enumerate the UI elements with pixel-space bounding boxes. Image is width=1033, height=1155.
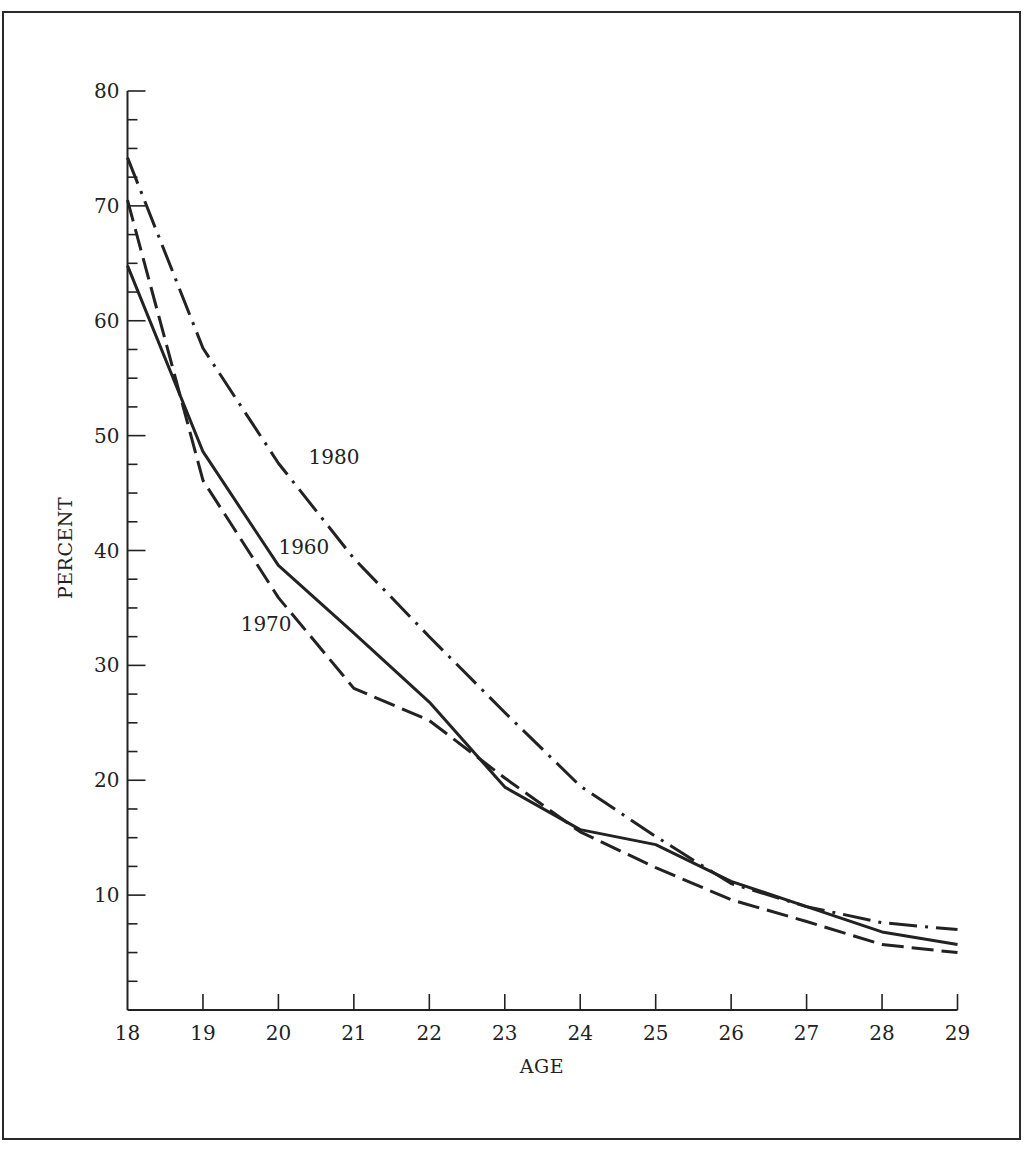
x-tick-label: 23: [492, 1021, 517, 1045]
axes: [128, 91, 958, 1010]
series-1960-line: [128, 266, 958, 945]
y-tick-label: 50: [94, 424, 119, 448]
x-tick-label: 22: [417, 1021, 442, 1045]
series-lines: [128, 158, 958, 953]
y-axis-title: PERCENT: [54, 497, 76, 599]
y-tick-label: 30: [94, 653, 119, 677]
x-tick-label: 19: [190, 1021, 215, 1045]
y-tick-label: 20: [94, 768, 119, 792]
y-tick-label: 80: [94, 79, 119, 103]
y-tick-label: 10: [94, 883, 119, 907]
x-tick-label: 28: [869, 1021, 894, 1045]
x-tick-label: 26: [718, 1021, 743, 1045]
series-label-1980: 1980: [309, 445, 360, 469]
x-tick-label: 29: [945, 1021, 970, 1045]
series-1980-line: [128, 158, 958, 930]
y-tick-label: 70: [94, 194, 119, 218]
axis-ticks: 1020304050607080181920212223242526272829: [94, 79, 970, 1045]
x-tick-label: 25: [643, 1021, 668, 1045]
line-chart: 1020304050607080181920212223242526272829…: [0, 0, 1033, 1155]
x-tick-label: 24: [568, 1021, 593, 1045]
y-tick-label: 60: [94, 309, 119, 333]
x-tick-label: 27: [794, 1021, 819, 1045]
x-axis-title: AGE: [519, 1055, 564, 1077]
y-tick-label: 40: [94, 539, 119, 563]
series-labels: 198019601970: [241, 445, 360, 636]
x-tick-label: 20: [266, 1021, 291, 1045]
x-tick-label: 18: [115, 1021, 140, 1045]
series-1970-line: [128, 200, 958, 953]
series-label-1960: 1960: [278, 535, 329, 559]
series-label-1970: 1970: [241, 612, 292, 636]
x-tick-label: 21: [341, 1021, 366, 1045]
